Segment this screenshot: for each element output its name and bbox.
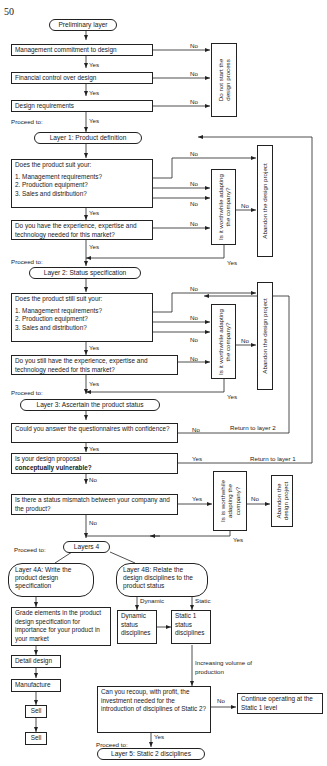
vulnerable-line2: conceptually vulnerable? [15,464,174,473]
no-label: No [190,42,198,49]
question-item: 3. Sales and distribution? [15,190,149,199]
confidence-question: Could you answer the questionnaires with… [11,423,178,443]
layer4b-node: Layer 4B: Relate the design disciplines … [116,563,208,597]
layer1-node: Layer 1: Product definition [34,132,142,144]
do-not-start-box: Do not start the design process [211,43,237,117]
no-label: No [89,519,97,526]
no-label: No [190,220,198,227]
question-item: 1. Management requirements? [15,173,149,182]
layer2-node: Layer 2: Status specification [29,267,141,279]
no-label: No [241,202,249,209]
layer1-suit-question: Does the product suit your: 1. Managemen… [11,159,153,208]
proceed-to-label: Proceed to: [11,118,43,125]
no-label: No [190,355,198,362]
detail-design-box: Detail design [11,655,61,668]
worthwhile-text: Is it worthwhile adapting the company? [216,307,231,377]
no-label: No [251,495,259,502]
continue-static1-box: Continue operating at the Static 1 level [237,693,323,714]
no-label: No [190,180,198,187]
layer1-experience-question: Do you have the experience, expertise an… [11,220,153,240]
question-item: 3. Sales and distribution? [15,324,149,333]
proceed-to-label: Proceed to: [96,741,128,748]
layer3-abandon-box: Abandon the design project [271,475,293,527]
recoup-question: Can you recoup, with profit, the investm… [97,686,211,733]
layers4-node: Layers 4 [63,541,110,553]
abandon-text: Abandon the design project [261,163,268,238]
yes-label: Yes [227,393,237,400]
financial-control-box: Financial control over design [11,72,153,84]
yes-label: Yes [154,733,164,740]
question-intro: Does the product still suit your: [15,295,149,304]
design-requirements-box: Design requirements [11,100,153,112]
yes-label: Yes [192,455,202,462]
layer2-suit-question: Does the product still suit your: 1. Man… [11,293,153,342]
layer1-abandon-box: Abandon the design project [257,145,273,257]
grade-elements-box: Grade elements in the product design spe… [11,607,111,646]
no-label: No [241,337,249,344]
vulnerable-line1: Is your design proposal [15,455,174,464]
layer4a-node: Layer 4A: Write the product design speci… [8,563,94,597]
layer3-worthwhile-box: Is is worthwhile adapting the company? [213,471,247,531]
static1-status-box: Static 1 status disciplines [171,610,211,644]
abandon-text: Abandon the design project [275,477,290,525]
layer2-worthwhile-box: Is it worthwhile adapting the company? [211,304,236,379]
worthwhile-text: Is is worthwhile adapting the company? [219,473,241,529]
yes-label: Yes [89,117,99,124]
dynamic-status-box: Dynamic status disciplines [117,610,157,644]
no-label: No [89,476,97,483]
no-label: No [190,336,198,343]
proceed-to-label: Proceed to: [14,546,46,553]
no-label: No [190,150,198,157]
yes-label: Yes [227,259,237,266]
yes-label: Yes [89,209,99,216]
yes-label: Yes [192,495,202,502]
worthwhile-text: Is it worthwhile adapting the company? [216,172,231,242]
static-label: Static [195,597,210,604]
yes-label: Yes [89,89,99,96]
no-label: No [190,98,198,105]
layer5-node: Layer 5: Static 2 disciplines [97,748,205,760]
yes-label: Yes [89,380,99,387]
abandon-text: Abandon the design project [261,298,268,373]
no-label: No [190,285,198,292]
no-label: No [190,200,198,207]
layer1-worthwhile-box: Is it worthwhile adapting the company? [211,169,236,245]
connector-lines [0,0,327,766]
yes-label: Yes [89,445,99,452]
yes-label: Yes [233,536,243,543]
no-label: No [192,426,200,433]
return-to-layer2-label: Return to layer 2 [230,424,276,431]
question-item: 2. Production equipment? [15,181,149,190]
manufacture-box: Manufacture [11,679,61,692]
sell-box-2: Sell [25,732,47,745]
mismatch-question: Is there a status mismatch between your … [11,494,178,515]
management-commitment-box: Management commitment to design [11,44,153,56]
do-not-start-text: Do not start the design process [217,50,232,110]
sell-box-1: Sell [25,705,47,718]
proceed-to-label: Proceed to: [11,389,43,396]
vulnerable-question: Is your design proposal conceptually vul… [11,453,178,474]
dynamic-label: Dynamic [140,597,164,604]
return-to-layer1-label: Return to layer 1 [250,455,296,462]
no-label: No [190,314,198,321]
question-item: 2. Production equipment? [15,315,149,324]
question-intro: Does the product suit your: [15,161,149,170]
proceed-to-label: Proceed to: [11,258,43,265]
layer2-experience-question: Do you still have the experience, expert… [11,355,178,375]
page-number: 50 [4,6,14,17]
yes-label: Yes [89,344,99,351]
increasing-volume-label: Increasing volume of production [195,658,265,676]
question-item: 1. Management requirements? [15,307,149,316]
yes-label: Yes [89,61,99,68]
no-label: No [190,70,198,77]
no-label: No [217,697,225,704]
layer2-abandon-box: Abandon the design project [257,282,273,390]
preliminary-layer-node: Preliminary layer [49,19,117,31]
layer3-node: Layer 3: Ascertain the product status [20,399,160,411]
yes-label: Yes [89,243,99,250]
